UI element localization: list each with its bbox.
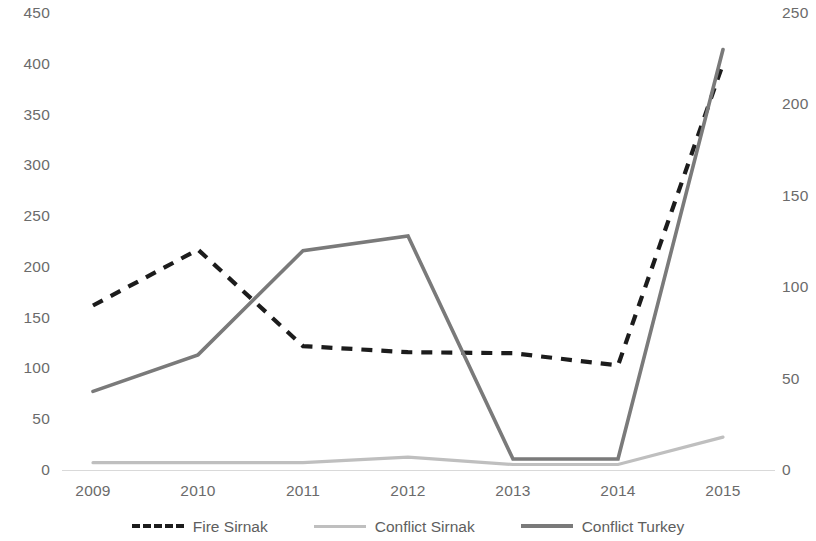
x-axis-tick-label: 2010: [158, 483, 238, 499]
series-line-fire-sirnak: [93, 64, 723, 366]
solid-line-light-icon: [314, 525, 366, 528]
axis-tick-label: 100: [0, 360, 50, 376]
axis-tick-label: 100: [782, 279, 816, 295]
axis-tick-label: 350: [0, 107, 50, 123]
axis-tick-label: 150: [0, 310, 50, 326]
axis-tick-label: 50: [0, 411, 50, 427]
axis-tick-label: 50: [782, 371, 816, 387]
chart-legend: Fire Sirnak Conflict Sirnak Conflict Tur…: [0, 519, 816, 535]
dashed-line-icon: [132, 524, 184, 528]
legend-label: Fire Sirnak: [193, 519, 268, 535]
x-axis-tick-label: 2011: [263, 483, 343, 499]
legend-item-conflict-turkey[interactable]: Conflict Turkey: [521, 519, 685, 535]
chart-container: 050100150200250300350400450 050100150200…: [0, 0, 816, 541]
legend-label: Conflict Sirnak: [375, 519, 475, 535]
axis-tick-label: 0: [782, 462, 816, 478]
axis-tick-label: 300: [0, 157, 50, 173]
axis-tick-label: 250: [0, 208, 50, 224]
series-line-conflict-sirnak: [93, 437, 723, 464]
x-axis-tick-label: 2013: [473, 483, 553, 499]
solid-line-dark-icon: [521, 524, 573, 528]
axis-tick-label: 150: [782, 188, 816, 204]
legend-item-fire-sirnak[interactable]: Fire Sirnak: [132, 519, 268, 535]
axis-tick-label: 400: [0, 56, 50, 72]
axis-tick-label: 450: [0, 5, 50, 21]
plot-area: [0, 0, 816, 541]
legend-item-conflict-sirnak[interactable]: Conflict Sirnak: [314, 519, 475, 535]
axis-tick-label: 0: [0, 462, 50, 478]
axis-tick-label: 250: [782, 5, 816, 21]
axis-tick-label: 200: [782, 96, 816, 112]
legend-label: Conflict Turkey: [582, 519, 685, 535]
x-axis-tick-label: 2009: [53, 483, 133, 499]
x-axis-tick-label: 2014: [578, 483, 658, 499]
axis-tick-label: 200: [0, 259, 50, 275]
x-axis-tick-label: 2012: [368, 483, 448, 499]
x-axis-tick-label: 2015: [683, 483, 763, 499]
